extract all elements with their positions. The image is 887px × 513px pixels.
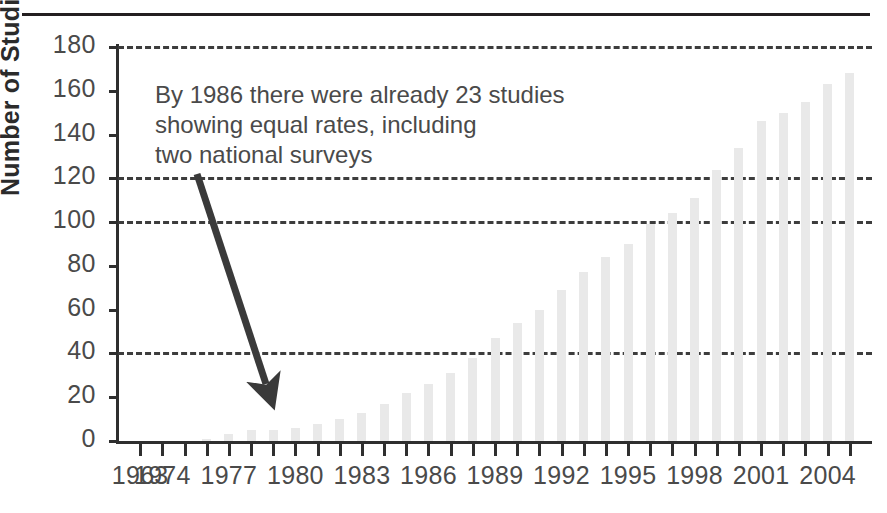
- bar-1979: [269, 430, 278, 441]
- y-tick-label-140: 140: [26, 118, 96, 147]
- y-tick-label-60: 60: [26, 293, 96, 322]
- x-tick-1997: [671, 444, 674, 456]
- y-tick-180: [109, 46, 118, 49]
- x-tick-1975: [184, 444, 187, 456]
- y-tick-100: [109, 221, 118, 224]
- bar-1985: [402, 393, 411, 441]
- bar-1976: [202, 439, 211, 441]
- bar-1988: [468, 358, 477, 441]
- x-tick-1994: [605, 444, 608, 456]
- y-tick-60: [109, 309, 118, 312]
- y-tick-label-80: 80: [26, 249, 96, 278]
- bar-1991: [535, 310, 544, 441]
- x-tick-1983: [361, 444, 364, 456]
- bar-1989: [491, 338, 500, 441]
- x-tick-2004: [827, 444, 830, 456]
- y-tick-label-100: 100: [26, 205, 96, 234]
- y-tick-80: [109, 265, 118, 268]
- x-tick-2003: [804, 444, 807, 456]
- bar-1990: [513, 323, 522, 441]
- x-tick-1996: [649, 444, 652, 456]
- annotation-line-3: two national surveys: [155, 140, 565, 170]
- x-tick-1989: [494, 444, 497, 456]
- bar-2005: [845, 73, 854, 441]
- y-tick-label-120: 120: [26, 161, 96, 190]
- bar-1993: [579, 272, 588, 441]
- x-tick-1979: [272, 444, 275, 456]
- bar-1977: [224, 434, 233, 441]
- x-tick-2005: [849, 444, 852, 456]
- bar-1986: [424, 384, 433, 441]
- x-tick-1987: [450, 444, 453, 456]
- x-tick-1990: [516, 444, 519, 456]
- x-tick-1982: [339, 444, 342, 456]
- x-tick-1976: [206, 444, 209, 456]
- y-tick-40: [109, 352, 118, 355]
- bar-1992: [557, 290, 566, 441]
- x-tick-1995: [627, 444, 630, 456]
- x-tick-1978: [250, 444, 253, 456]
- y-tick-120: [109, 177, 118, 180]
- annotation-line-2: showing equal rates, including: [155, 110, 565, 140]
- chart-figure: Number of Studies 0204060801001201401601…: [0, 0, 887, 513]
- x-tick-1986: [427, 444, 430, 456]
- x-tick-2002: [782, 444, 785, 456]
- x-tick-1974: [161, 444, 164, 456]
- bar-1999: [712, 170, 721, 441]
- x-tick-1980: [294, 444, 297, 456]
- x-tick-1992: [561, 444, 564, 456]
- x-tick-1998: [694, 444, 697, 456]
- x-tick-1988: [472, 444, 475, 456]
- bar-1981: [313, 424, 322, 442]
- bar-1984: [380, 404, 389, 441]
- y-tick-20: [109, 396, 118, 399]
- y-tick-label-160: 160: [26, 74, 96, 103]
- bar-2002: [779, 113, 788, 441]
- x-tick-1985: [405, 444, 408, 456]
- y-tick-label-180: 180: [26, 30, 96, 59]
- bar-1980: [291, 428, 300, 441]
- y-tick-label-20: 20: [26, 380, 96, 409]
- y-axis-title: Number of Studies: [0, 0, 25, 196]
- x-tick-1981: [317, 444, 320, 456]
- annotation-line-1: By 1986 there were already 23 studies: [155, 80, 565, 110]
- x-tick-label-2004: 2004: [788, 461, 868, 490]
- bar-1987: [446, 373, 455, 441]
- bar-2000: [734, 148, 743, 441]
- x-tick-1977: [228, 444, 231, 456]
- x-tick-1991: [538, 444, 541, 456]
- bar-2003: [801, 102, 810, 441]
- bar-2001: [757, 121, 766, 441]
- y-tick-label-40: 40: [26, 336, 96, 365]
- bar-1983: [357, 413, 366, 441]
- bar-1997: [668, 213, 677, 441]
- bar-1994: [601, 257, 610, 441]
- bar-1995: [624, 244, 633, 441]
- x-tick-1993: [583, 444, 586, 456]
- top-horizontal-rule: [22, 13, 870, 16]
- bar-1982: [335, 419, 344, 441]
- bar-1978: [247, 430, 256, 441]
- y-tick-140: [109, 134, 118, 137]
- x-tick-1963: [139, 444, 142, 456]
- y-tick-160: [109, 90, 118, 93]
- bar-2004: [823, 84, 832, 441]
- x-tick-1999: [716, 444, 719, 456]
- y-tick-label-0: 0: [26, 424, 96, 453]
- x-tick-1984: [383, 444, 386, 456]
- bar-1998: [690, 198, 699, 441]
- x-tick-2001: [760, 444, 763, 456]
- y-tick-0: [109, 440, 118, 443]
- chart-annotation: By 1986 there were already 23 studies sh…: [155, 80, 565, 170]
- bar-1996: [646, 224, 655, 441]
- x-tick-2000: [738, 444, 741, 456]
